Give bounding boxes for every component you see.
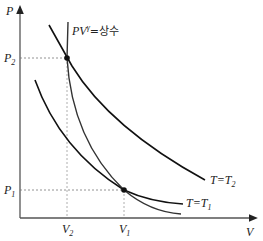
pv-diagram: P V P2 P1 V2 V1 PVγ=상수 T=T2 T=T1 <box>0 0 263 241</box>
adiabat-label: PVγ=상수 <box>71 23 119 38</box>
p1-label: P1 <box>3 183 15 199</box>
p2-label: P2 <box>3 51 15 67</box>
isotherm-t2-label: T=T2 <box>210 173 235 189</box>
isotherm-t1-curve <box>35 80 183 204</box>
state-point-2 <box>64 55 70 61</box>
adiabat-curve <box>67 22 181 214</box>
v-axis-label: V <box>246 225 255 239</box>
state-point-1 <box>121 187 127 193</box>
isotherm-t1-label: T=T1 <box>186 196 211 212</box>
isotherm-t2-curve <box>49 25 205 180</box>
v1-label: V1 <box>119 222 130 238</box>
v2-label: V2 <box>62 222 73 238</box>
p-axis-label: P <box>5 4 14 18</box>
